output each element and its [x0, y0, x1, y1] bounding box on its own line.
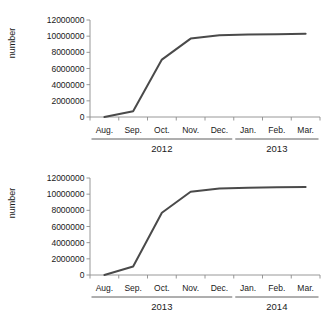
line-chart-top: 0200000040000006000000800000010000000120…: [0, 0, 326, 160]
group-year-label: 2013: [151, 301, 172, 312]
x-tick-label: Sep.: [124, 125, 142, 135]
y-tick-label: 0: [80, 112, 85, 122]
data-series-line: [104, 187, 305, 275]
y-tick-label: 8000000: [51, 47, 84, 57]
x-tick-label: Oct.: [154, 283, 170, 293]
y-tick-label: 10000000: [47, 31, 85, 41]
group-year-label: 2012: [151, 143, 172, 154]
y-tick-label: 10000000: [47, 189, 85, 199]
x-tick-label: Jan.: [240, 125, 256, 135]
x-tick-label: Mar.: [297, 125, 314, 135]
x-tick-label: Aug.: [96, 283, 114, 293]
y-tick-label: 12000000: [47, 15, 85, 25]
group-year-label: 2013: [266, 143, 287, 154]
y-tick-label: 2000000: [51, 96, 84, 106]
chart-panel-top: number 020000004000000600000080000001000…: [0, 0, 326, 160]
x-tick-label: Feb.: [268, 283, 285, 293]
x-tick-label: Sep.: [124, 283, 142, 293]
x-tick-label: Dec.: [211, 283, 228, 293]
x-tick-label: Dec.: [211, 125, 228, 135]
y-tick-label: 2000000: [51, 254, 84, 264]
group-year-label: 2014: [266, 301, 287, 312]
x-tick-label: Feb.: [268, 125, 285, 135]
x-tick-label: Jan.: [240, 283, 256, 293]
y-tick-label: 4000000: [51, 80, 84, 90]
line-chart-bottom: 0200000040000006000000800000010000000120…: [0, 160, 326, 319]
y-tick-label: 6000000: [51, 64, 84, 74]
x-tick-label: Nov.: [182, 125, 199, 135]
y-tick-label: 12000000: [47, 173, 85, 183]
data-series-line: [104, 34, 305, 117]
figure-container: number 020000004000000600000080000001000…: [0, 0, 326, 319]
y-tick-label: 6000000: [51, 222, 84, 232]
y-tick-label: 8000000: [51, 205, 84, 215]
y-tick-label: 0: [80, 270, 85, 280]
y-tick-label: 4000000: [51, 238, 84, 248]
x-tick-label: Oct.: [154, 125, 170, 135]
x-tick-label: Nov.: [182, 283, 199, 293]
x-tick-label: Aug.: [96, 125, 114, 135]
x-tick-label: Mar.: [297, 283, 314, 293]
chart-panel-bottom: number 020000004000000600000080000001000…: [0, 160, 326, 319]
